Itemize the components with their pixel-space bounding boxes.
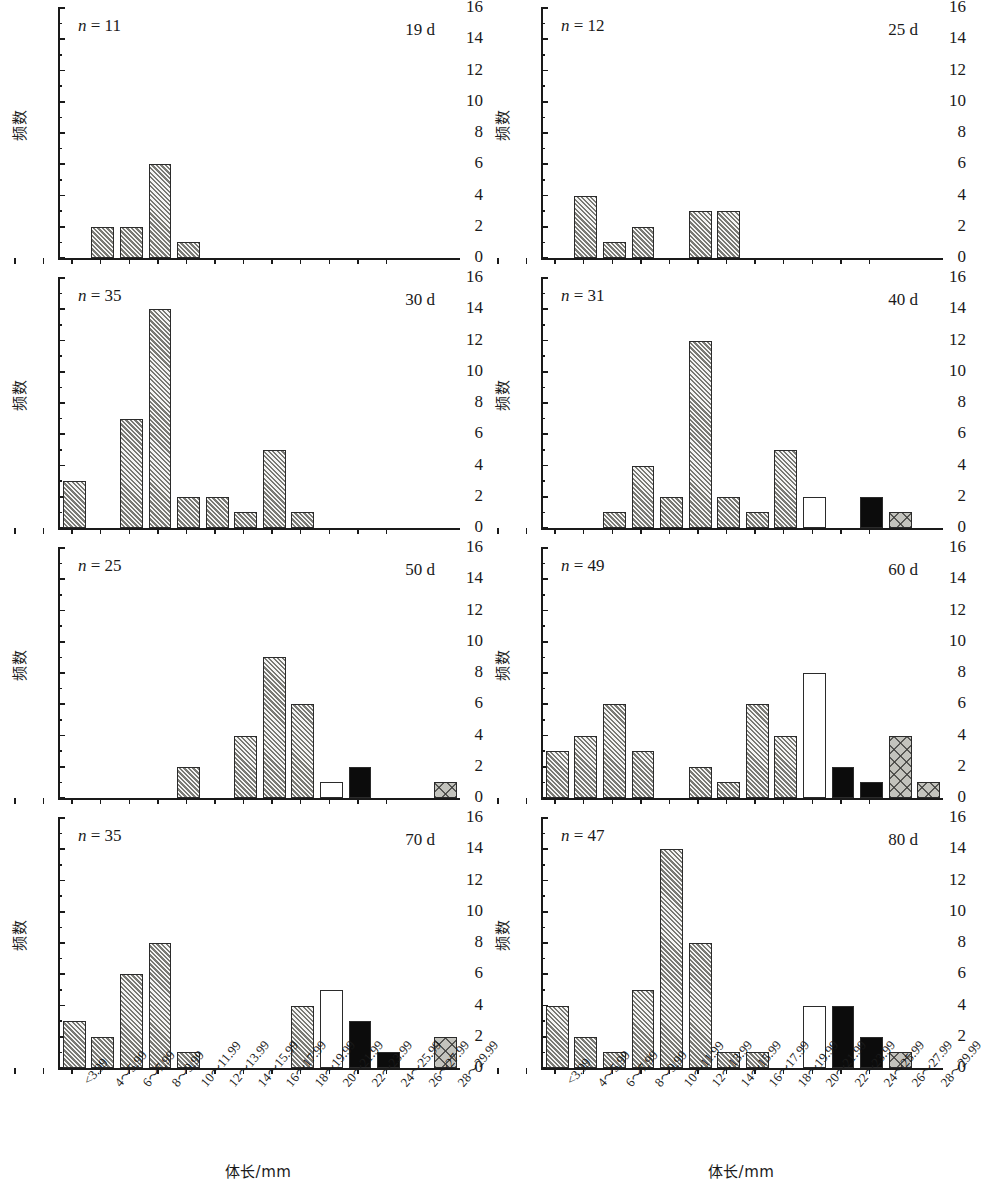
x-axis-tick [71, 528, 72, 534]
histogram-bar [917, 782, 940, 798]
x-axis-tick [300, 528, 301, 534]
histogram-bar [774, 450, 797, 528]
histogram-bar [263, 657, 286, 798]
x-axis-tick [43, 798, 44, 804]
panel-day-label: 30 d [405, 290, 435, 310]
x-axis-tick [612, 258, 613, 264]
histogram-bar [206, 497, 229, 528]
sample-size-label: n = 31 [561, 286, 605, 306]
x-axis-tick [754, 798, 755, 804]
x-axis-tick [669, 258, 670, 264]
x-axis-tick-labels: <3.994～5.996～7.998～9.9910～11.9912～13.991… [58, 1078, 460, 1148]
x-axis-tick [812, 258, 813, 264]
x-axis-tick [754, 258, 755, 264]
x-axis-line [58, 258, 460, 260]
x-axis-tick [583, 258, 584, 264]
x-axis-line [541, 528, 943, 530]
x-axis-tick-labels: <3.994～5.996～7.998～9.9910～11.9912～13.991… [541, 1078, 943, 1148]
x-axis-tick [157, 528, 158, 534]
x-axis-tick [497, 1068, 498, 1074]
x-axis-tick [554, 528, 555, 534]
sample-size-label: n = 35 [78, 826, 122, 846]
histogram-bar [349, 767, 372, 798]
panel-day-label: 70 d [405, 830, 435, 850]
x-axis-tick [526, 258, 527, 264]
x-axis-tick [214, 798, 215, 804]
x-axis-tick [526, 798, 527, 804]
x-axis-tick [100, 798, 101, 804]
x-axis-tick [386, 528, 387, 534]
histogram-bar [803, 673, 826, 798]
x-axis-tick [669, 798, 670, 804]
x-axis-line [58, 798, 460, 800]
x-axis-tick [783, 528, 784, 534]
panel-day-label: 60 d [888, 560, 918, 580]
x-axis-tick [612, 798, 613, 804]
x-axis-line [58, 528, 460, 530]
x-axis-tick [554, 258, 555, 264]
histogram-bar [632, 227, 655, 258]
histogram-bar [717, 497, 740, 528]
x-axis-tick [754, 528, 755, 534]
x-axis-tick [583, 798, 584, 804]
histogram-bar [546, 1006, 569, 1069]
plot-area [60, 548, 460, 798]
x-axis-tick [157, 258, 158, 264]
x-axis-tick [554, 798, 555, 804]
histogram-panel-30d: 频数0246810121416n = 3530 d [0, 270, 483, 540]
x-axis-tick [497, 258, 498, 264]
x-axis-tick [271, 798, 272, 804]
histogram-bar [603, 512, 626, 528]
x-axis-tick [697, 528, 698, 534]
x-axis-tick [329, 798, 330, 804]
x-axis-tick [869, 258, 870, 264]
y-axis-label: 频数 [8, 109, 29, 141]
x-axis-tick [100, 528, 101, 534]
x-axis-tick [43, 528, 44, 534]
x-axis-tick [840, 798, 841, 804]
x-axis-title: 体长/mm [58, 1160, 458, 1181]
histogram-bar [603, 242, 626, 258]
sample-size-label: n = 47 [561, 826, 605, 846]
panel-day-label: 50 d [405, 560, 435, 580]
histogram-bar [660, 497, 683, 528]
histogram-panel-25d: 频数0246810121416n = 1225 d [483, 0, 966, 270]
histogram-bar [860, 782, 883, 798]
y-axis-label: 频数 [491, 919, 512, 951]
histogram-bar [889, 512, 912, 528]
y-axis-label: 频数 [491, 109, 512, 141]
histogram-bar [263, 450, 286, 528]
histogram-bar [63, 481, 86, 528]
histogram-bar [717, 211, 740, 258]
histogram-bar [689, 341, 712, 529]
x-axis-tick [497, 798, 498, 804]
x-axis-tick [43, 258, 44, 264]
x-axis-tick [526, 1068, 527, 1074]
histogram-panel-70d: 频数0246810121416n = 3570 d<3.994～5.996～7.… [0, 810, 483, 1085]
x-axis-tick [186, 258, 187, 264]
histogram-bar [632, 466, 655, 529]
x-axis-tick [329, 528, 330, 534]
histogram-bar [717, 782, 740, 798]
x-axis-tick [640, 258, 641, 264]
histogram-bar [149, 309, 172, 528]
panel-day-label: 25 d [888, 20, 918, 40]
x-axis-tick [157, 798, 158, 804]
histogram-bar [803, 497, 826, 528]
x-axis-tick [214, 528, 215, 534]
x-axis-tick [43, 1068, 44, 1074]
x-axis-tick [869, 798, 870, 804]
x-axis-tick [783, 798, 784, 804]
histogram-bar [120, 227, 143, 258]
x-axis-tick [386, 258, 387, 264]
histogram-bar [860, 497, 883, 528]
plot-area [60, 8, 460, 258]
y-axis-label: 频数 [491, 649, 512, 681]
sample-size-label: n = 49 [561, 556, 605, 576]
x-axis-tick [640, 798, 641, 804]
x-axis-tick [726, 798, 727, 804]
sample-size-label: n = 12 [561, 16, 605, 36]
x-axis-tick [129, 528, 130, 534]
x-axis-tick [840, 528, 841, 534]
